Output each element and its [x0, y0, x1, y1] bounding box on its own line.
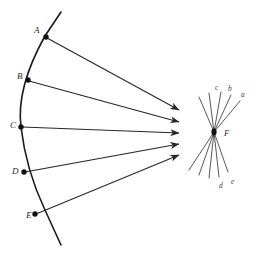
focus-lower-labels: d e [219, 177, 235, 190]
ray-from-B [29, 81, 179, 122]
fan-line-c-upper [214, 92, 221, 132]
focus-lower-fan [189, 132, 228, 178]
point-label-E: E [25, 210, 32, 220]
point-dot-D [21, 169, 26, 174]
figure-root: A B C D E F a b c [0, 0, 256, 257]
point-label-B: B [17, 71, 23, 81]
point-label-D: D [11, 166, 19, 176]
point-label-C: C [10, 120, 17, 130]
mirror-point-dots [18, 34, 48, 216]
ray-from-A [47, 38, 179, 110]
focus-upper-fan [199, 92, 240, 132]
fan-label-b: b [228, 84, 232, 93]
fan-label-a: a [241, 90, 245, 99]
fan-label-d: d [219, 181, 223, 190]
ray-group [22, 38, 179, 214]
fan-line-b-upper [214, 95, 231, 132]
ray-from-C [22, 127, 179, 133]
point-dot-C [18, 124, 23, 129]
ray-from-E [36, 155, 179, 214]
focus-point-dot [211, 129, 216, 136]
point-label-A: A [33, 25, 40, 35]
optics-diagram: A B C D E F a b c [0, 0, 256, 257]
focus-label-F: F [223, 128, 230, 138]
ray-from-D [25, 144, 179, 172]
fan-label-c: c [215, 83, 219, 92]
point-dot-B [25, 77, 30, 82]
fan-label-e: e [231, 177, 235, 186]
point-dot-A [43, 34, 48, 39]
point-dot-E [32, 211, 37, 216]
